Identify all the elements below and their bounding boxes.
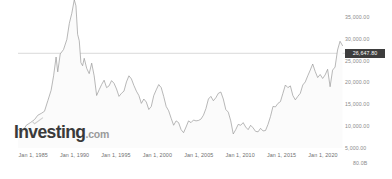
volume-axis-label: 80.0B <box>353 160 392 166</box>
watermark-brand: Investing <box>14 122 85 142</box>
x-tick-label: Jan 1, 2005 <box>184 151 213 159</box>
current-price-badge: 26,647.80 <box>345 49 385 58</box>
y-tick-label: 35,000.00 <box>345 14 392 20</box>
x-tick-label: Jan 1, 1995 <box>101 151 130 159</box>
y-tick-label: 5,000.00 <box>345 145 392 151</box>
x-tick-label: Jan 1, 2015 <box>267 151 296 159</box>
price-chart-widget: 35,000.0030,000.0025,000.0020,000.0015,0… <box>0 0 392 179</box>
watermark-suffix: .com <box>85 128 109 140</box>
y-tick-label: 30,000.00 <box>345 36 392 42</box>
x-axis: Jan 1, 1985Jan 1, 1990Jan 1, 1995Jan 1, … <box>0 151 345 163</box>
x-tick-label: Jan 1, 2010 <box>226 151 255 159</box>
y-tick-label: 10,000.00 <box>345 123 392 129</box>
y-tick-label: 15,000.00 <box>345 101 392 107</box>
investing-com-watermark: Investing.com <box>14 121 109 143</box>
y-tick-label: 20,000.00 <box>345 79 392 85</box>
x-tick-label: Jan 1, 2020 <box>308 151 337 159</box>
x-tick-label: Jan 1, 1985 <box>19 151 48 159</box>
y-axis: 35,000.0030,000.0025,000.0020,000.0015,0… <box>345 0 392 179</box>
x-tick-label: Jan 1, 1990 <box>60 151 89 159</box>
y-tick-label: 25,000.00 <box>345 58 392 64</box>
x-tick-label: Jan 1, 2000 <box>143 151 172 159</box>
check-icon <box>32 117 44 125</box>
